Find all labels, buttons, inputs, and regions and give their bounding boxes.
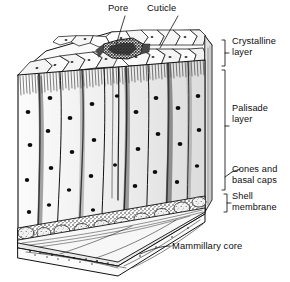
crystalline-layer-bracket <box>222 40 229 66</box>
label-mammillary-core: Mammillary core <box>172 241 242 251</box>
layer-brackets <box>222 40 240 212</box>
figure-canvas: Pore Cuticle Crystalline layer Palisade … <box>0 0 290 282</box>
label-cuticle: Cuticle <box>147 3 176 13</box>
palisade-layer-bracket <box>222 70 229 190</box>
label-shell-membrane-line2: membrane <box>232 202 277 212</box>
shell-membrane-bracket <box>224 194 231 212</box>
label-crystalline-layer-line1: Crystalline <box>232 36 276 46</box>
label-palisade-layer-line2: layer <box>232 114 252 124</box>
label-pore: Pore <box>108 3 128 13</box>
label-palisade-layer-line1: Palisade <box>232 103 268 113</box>
label-cones-line2: basal caps <box>232 175 277 185</box>
label-cones-line1: Cones and <box>232 164 277 174</box>
label-shell-membrane-line1: Shell <box>232 191 253 201</box>
shell-block-drawing <box>18 16 240 276</box>
right-side-face <box>205 36 212 212</box>
label-crystalline-layer-line2: layer <box>232 47 252 57</box>
